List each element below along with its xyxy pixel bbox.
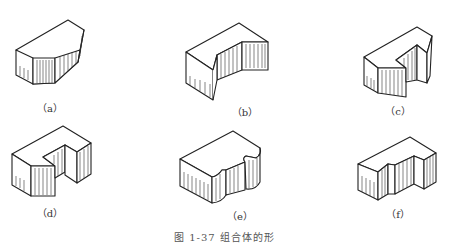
figure-e bbox=[150, 110, 300, 214]
stepped-block-drawing bbox=[300, 110, 449, 210]
figure-c bbox=[300, 0, 449, 104]
truncated-prism-drawing bbox=[0, 0, 150, 100]
figure-b bbox=[150, 0, 300, 104]
figure-d bbox=[0, 110, 150, 214]
figure-label-e: （e） bbox=[220, 208, 260, 223]
figure-f bbox=[300, 110, 449, 214]
figure-caption: 图 1-37 组合体的形 bbox=[0, 229, 449, 244]
rounded-notch-block-drawing bbox=[150, 110, 300, 210]
u-block-drawing bbox=[0, 110, 150, 210]
figure-a bbox=[0, 0, 150, 104]
figure-label-f: （f） bbox=[378, 206, 418, 221]
notched-block-drawing bbox=[150, 0, 300, 100]
figure-label-d: （d） bbox=[30, 205, 70, 220]
c-block-drawing bbox=[300, 0, 449, 100]
